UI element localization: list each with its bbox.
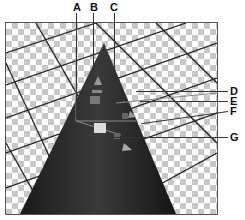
leader-b [93, 13, 94, 83]
y-scale-handle [90, 96, 100, 104]
leader-c [114, 13, 115, 113]
leader-d [136, 91, 228, 92]
callout-b: B [90, 2, 98, 13]
callout-c: C [110, 2, 118, 13]
scene-3d [6, 23, 217, 214]
leader-e [140, 101, 228, 102]
y-rotate-handle [92, 90, 102, 93]
callout-a: A [73, 2, 81, 13]
leader-g [108, 137, 228, 138]
x-scale-handle [114, 133, 120, 139]
callout-f: F [230, 106, 237, 117]
leader-a [76, 13, 77, 119]
viewport-frame [5, 22, 218, 215]
callout-g: G [230, 132, 239, 143]
z-scale-handle [122, 113, 128, 119]
uniform-scale-handle [94, 123, 106, 133]
